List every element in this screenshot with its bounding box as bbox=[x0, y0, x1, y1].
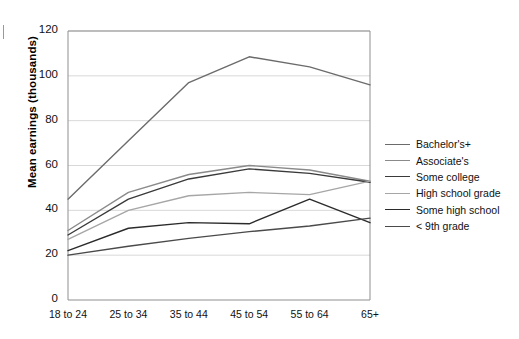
x-tick-label: 45 to 54 bbox=[217, 308, 281, 320]
legend-color-swatch bbox=[385, 160, 410, 161]
legend-item-label: Some college bbox=[416, 171, 480, 183]
y-axis-title: Mean earnings (thousands) bbox=[26, 17, 38, 207]
legend-item-label: < 9th grade bbox=[416, 220, 469, 232]
x-tick-label: 25 to 34 bbox=[96, 308, 160, 320]
legend-item: Associate's bbox=[385, 152, 519, 168]
legend-item-label: High school grade bbox=[416, 187, 501, 199]
x-tick-label: 18 to 24 bbox=[36, 308, 100, 320]
gridlines bbox=[68, 31, 370, 255]
x-tick-label: 35 to 44 bbox=[157, 308, 221, 320]
legend-item-label: Associate's bbox=[416, 155, 469, 167]
series-line bbox=[68, 57, 370, 199]
legend-item: Bachelor's+ bbox=[385, 136, 519, 152]
x-tick-label: 55 to 64 bbox=[278, 308, 342, 320]
legend-item-label: Some high school bbox=[416, 204, 499, 216]
legend-item: Some college bbox=[385, 169, 519, 185]
series-lines bbox=[68, 57, 370, 255]
legend-color-swatch bbox=[385, 176, 410, 177]
legend-color-swatch bbox=[385, 144, 410, 145]
series-line bbox=[68, 199, 370, 251]
legend-color-swatch bbox=[385, 226, 410, 227]
legend-item-label: Bachelor's+ bbox=[416, 138, 471, 150]
x-tick-label: 65+ bbox=[338, 308, 402, 320]
legend-item: < 9th grade bbox=[385, 218, 519, 234]
legend-item: High school grade bbox=[385, 185, 519, 201]
legend-item: Some high school bbox=[385, 202, 519, 218]
y-tick-label: 0 bbox=[22, 292, 58, 304]
legend-color-swatch bbox=[385, 193, 410, 194]
legend-color-swatch bbox=[385, 209, 410, 210]
y-tick-label: 20 bbox=[22, 247, 58, 259]
chart-figure: 120100806040200 18 to 2425 to 3435 to 44… bbox=[0, 0, 519, 339]
chart-legend: Bachelor's+Associate'sSome collegeHigh s… bbox=[385, 136, 519, 234]
